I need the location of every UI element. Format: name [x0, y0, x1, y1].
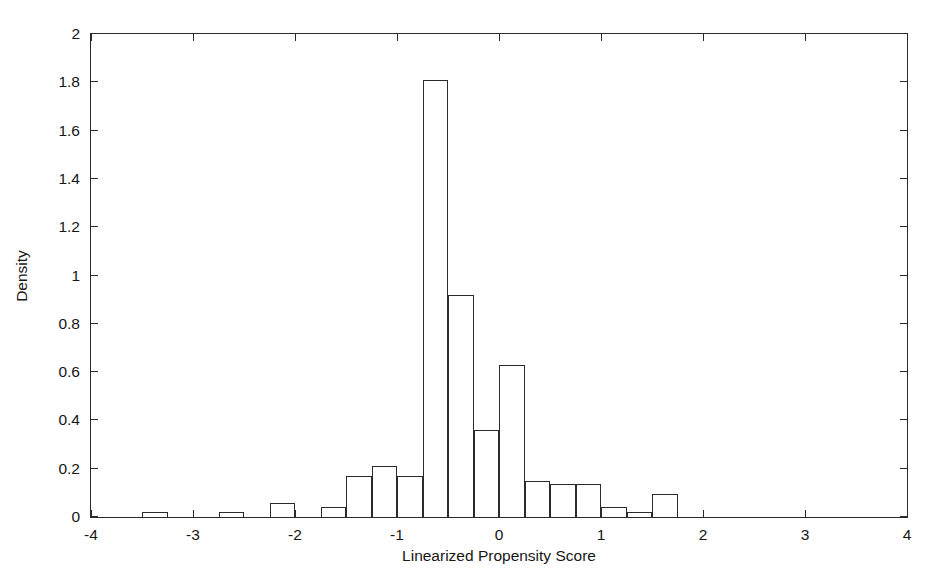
x-tick-mark [295, 510, 296, 517]
x-tick-mark [499, 510, 500, 517]
y-tick-label: 1.4 [58, 170, 80, 188]
y-tick-mark-right [900, 323, 907, 324]
y-tick-mark [91, 323, 98, 324]
x-tick-mark-top [193, 34, 194, 41]
histogram-bar [142, 512, 168, 517]
histogram-bar [219, 512, 245, 517]
histogram-figure: 00.20.40.60.811.21.41.61.82 -4-3-2-10123… [0, 0, 942, 584]
x-tick-mark-top [703, 34, 704, 41]
y-tick-label: 1.2 [58, 218, 80, 236]
y-tick-mark-right [900, 226, 907, 227]
histogram-bar [346, 476, 372, 517]
plot-area: 00.20.40.60.811.21.41.61.82 -4-3-2-10123… [90, 33, 908, 518]
x-tick-mark [805, 510, 806, 517]
y-tick-mark [91, 130, 98, 131]
histogram-bar [550, 484, 576, 517]
y-tick-label: 0.6 [58, 363, 80, 381]
histogram-bar [576, 484, 602, 517]
x-tick-label: 2 [699, 526, 708, 544]
x-tick-label: 1 [597, 526, 606, 544]
y-tick-label: 0 [71, 508, 80, 526]
histogram-bar [448, 295, 474, 517]
y-tick-mark-right [900, 419, 907, 420]
x-tick-mark [907, 510, 908, 517]
x-tick-label: -1 [390, 526, 404, 544]
y-tick-mark-right [900, 81, 907, 82]
x-tick-mark [91, 510, 92, 517]
y-tick-mark-right [900, 516, 907, 517]
y-tick-label: 0.8 [58, 315, 80, 333]
y-tick-mark-right [900, 130, 907, 131]
y-tick-mark [91, 33, 98, 34]
histogram-bar [499, 365, 525, 517]
y-axis-title-text: Density [13, 250, 31, 302]
x-tick-label: -4 [84, 526, 98, 544]
histogram-bar [652, 494, 678, 517]
histogram-bars [91, 34, 907, 517]
x-tick-mark [193, 510, 194, 517]
x-tick-mark-top [805, 34, 806, 41]
x-tick-mark [601, 510, 602, 517]
x-axis-title-text: Linearized Propensity Score [402, 547, 596, 564]
x-tick-mark [703, 510, 704, 517]
y-tick-label: 0.4 [58, 411, 80, 429]
y-tick-mark [91, 371, 98, 372]
histogram-bar [627, 512, 653, 517]
histogram-bar [270, 503, 296, 517]
y-tick-mark-right [900, 371, 907, 372]
y-tick-mark [91, 81, 98, 82]
x-tick-label: -2 [288, 526, 302, 544]
y-tick-label: 1 [71, 267, 80, 285]
x-tick-mark-top [907, 34, 908, 41]
y-tick-mark [91, 275, 98, 276]
y-tick-label: 1.8 [58, 73, 80, 91]
y-tick-mark [91, 468, 98, 469]
y-tick-mark-right [900, 178, 907, 179]
x-tick-mark-top [499, 34, 500, 41]
x-tick-label: 3 [801, 526, 810, 544]
histogram-bar [423, 80, 449, 517]
histogram-bar [397, 476, 423, 517]
y-tick-label: 2 [71, 25, 80, 43]
histogram-bar [525, 481, 551, 517]
x-tick-mark-top [295, 34, 296, 41]
y-tick-mark [91, 226, 98, 227]
y-tick-mark [91, 516, 98, 517]
y-tick-label: 1.6 [58, 122, 80, 140]
x-tick-label: -3 [186, 526, 200, 544]
x-tick-mark-top [397, 34, 398, 41]
x-tick-mark-top [601, 34, 602, 41]
x-tick-mark [397, 510, 398, 517]
x-tick-label: 4 [903, 526, 912, 544]
y-tick-mark [91, 178, 98, 179]
x-tick-label: 0 [495, 526, 504, 544]
histogram-bar [372, 466, 398, 517]
histogram-bar [321, 507, 347, 517]
y-tick-mark-right [900, 33, 907, 34]
y-axis-title: Density [12, 33, 32, 518]
y-tick-mark-right [900, 468, 907, 469]
x-axis-title: Linearized Propensity Score [90, 547, 908, 565]
histogram-bar [601, 507, 627, 517]
y-tick-label: 0.2 [58, 460, 80, 478]
x-tick-mark-top [91, 34, 92, 41]
y-tick-mark [91, 419, 98, 420]
y-tick-mark-right [900, 275, 907, 276]
histogram-bar [474, 430, 500, 517]
